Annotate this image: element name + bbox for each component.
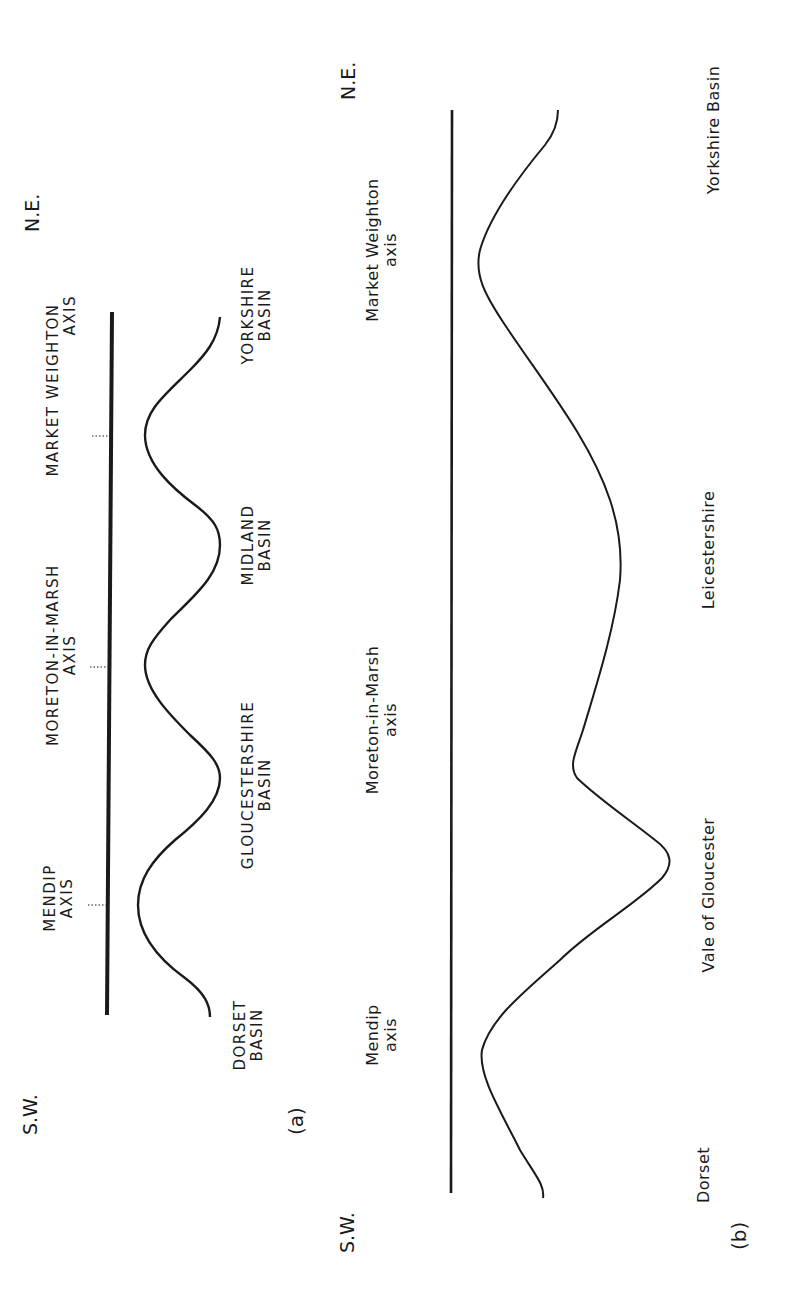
panel-b-label: (b): [728, 1222, 751, 1250]
panel-b-sw-label: S.W.: [337, 1212, 359, 1253]
panel-a-basin-midland: MIDLAND BASIN: [240, 480, 275, 610]
panel-b-axis-moreton: Moreton-in-Marsh axis: [364, 610, 401, 830]
basin-name: DORSET: [232, 985, 249, 1085]
axis-name: Market Weighton: [364, 140, 382, 360]
panel-a-basin-gloucestershire: GLOUCESTERSHIRE BASIN: [240, 695, 275, 875]
panel-a-reference-line: [107, 312, 112, 1015]
axis-suffix: axis: [382, 140, 400, 360]
panel-b-axis-market-weighton: Market Weighton axis: [364, 140, 401, 360]
panel-b-region-yorkshire-basin: Yorkshire Basin: [705, 40, 723, 220]
axis-suffix: axis: [382, 980, 400, 1090]
panel-a-basin-dorset: DORSET BASIN: [232, 985, 267, 1085]
axis-suffix: AXIS: [59, 848, 76, 948]
axis-suffix: AXIS: [62, 280, 79, 500]
panel-b-reference-line: [451, 110, 452, 1193]
basin-name: YORKSHIRE: [240, 250, 257, 380]
basin-name: MIDLAND: [240, 480, 257, 610]
axis-suffix: axis: [382, 610, 400, 830]
panel-b-region-vale-of-gloucester: Vale of Gloucester: [700, 780, 718, 1010]
basin-name: GLOUCESTERSHIRE: [240, 695, 257, 875]
basin-suffix: BASIN: [249, 985, 266, 1085]
axis-name: Mendip: [364, 980, 382, 1090]
basin-suffix: BASIN: [257, 250, 274, 380]
basin-suffix: BASIN: [257, 480, 274, 610]
panel-b-fold-curve: [478, 110, 669, 1198]
panel-a-ne-label: N.E.: [22, 194, 44, 232]
panel-a-axis-moreton: MORETON-IN-MARSH AXIS: [45, 540, 80, 770]
axis-suffix: AXIS: [62, 540, 79, 770]
panel-a-sw-label: S.W.: [20, 1094, 42, 1135]
panel-b-ne-label: N.E.: [338, 62, 360, 100]
panel-b-region-dorset: Dorset: [695, 1130, 713, 1220]
axis-name: MARKET WEIGHTON: [45, 280, 62, 500]
axis-name: MORETON-IN-MARSH: [45, 540, 62, 770]
panel-b-axis-mendip: Mendip axis: [364, 980, 401, 1090]
panel-b-region-leicestershire: Leicestershire: [700, 440, 718, 660]
panel-a-basin-yorkshire: YORKSHIRE BASIN: [240, 250, 275, 380]
basin-suffix: BASIN: [257, 695, 274, 875]
panel-a-axis-mendip: MENDIP AXIS: [42, 848, 77, 948]
panel-a-label: (a): [285, 1107, 308, 1135]
panel-a-fold-curve: [138, 317, 220, 1017]
axis-name: MENDIP: [42, 848, 59, 948]
panel-a-axis-market-weighton: MARKET WEIGHTON AXIS: [45, 280, 80, 500]
axis-name: Moreton-in-Marsh: [364, 610, 382, 830]
